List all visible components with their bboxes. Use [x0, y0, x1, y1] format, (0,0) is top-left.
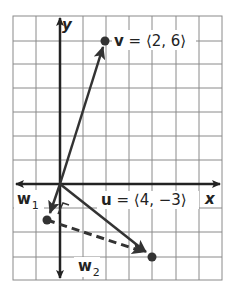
w1-label-name: w	[17, 190, 31, 208]
vector-v-endpoint	[101, 37, 110, 46]
axes	[16, 18, 220, 278]
w1-label-sub: 1	[32, 199, 39, 212]
v-label: v = ⟨2, 6⟩	[114, 32, 186, 50]
vector-v	[60, 47, 103, 184]
u-label: u = ⟨4, −3⟩	[101, 191, 187, 209]
u-label-name: u	[101, 191, 112, 209]
v-label-value: = ⟨2, 6⟩	[124, 32, 186, 50]
y-axis-label: y	[62, 16, 73, 34]
vector-u-endpoint	[148, 253, 157, 262]
vector-w1	[50, 184, 60, 213]
w2-label-sub: 2	[93, 266, 100, 279]
diagram-canvas: y x v = ⟨2, 6⟩ u = ⟨4, −3⟩ w1 w2	[0, 0, 239, 298]
x-axis-label: x	[204, 190, 216, 208]
u-label-value: = ⟨4, −3⟩	[112, 191, 187, 209]
grid	[13, 16, 222, 280]
v-label-name: v	[114, 32, 124, 50]
w2-label-name: w	[78, 257, 92, 275]
